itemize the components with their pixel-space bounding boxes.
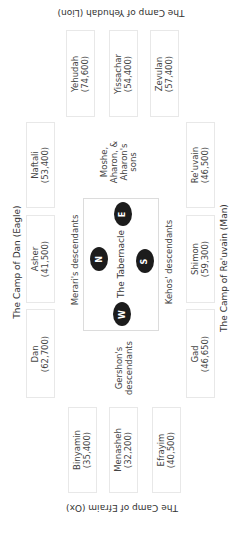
tribe-box-gad: Gad(46,650) (186, 309, 215, 398)
tribe-name: Yehudah (71, 55, 81, 91)
tabernacle-label: The Tabernacle (116, 230, 126, 298)
camp-label-efraim: The Camp of Efraim (Ox) (66, 503, 178, 513)
tribe-name: Yissachar (114, 53, 124, 93)
camp-label-yehudah: The Camp of Yehudah (Lion) (57, 8, 184, 18)
tribe-count: (41,500) (41, 241, 51, 277)
tribe-box-asher: Asher(41,500) (26, 215, 55, 303)
tribe-name: Gad (191, 335, 201, 371)
tribe-name: Naftali (31, 147, 41, 183)
tribe-name: Asher (31, 241, 41, 277)
tribe-box-shimon: Shimon(59,300) (186, 215, 215, 303)
direction-letter: W (117, 310, 126, 319)
levites-east-line: sons (130, 141, 140, 183)
tribe-box-dan: Dan(62,700) (26, 309, 55, 398)
tribe-box-naftali: Naftali(53,400) (26, 122, 55, 208)
tribe-name: Menasheh (114, 428, 124, 472)
levites-south-label: Kehos' descendants (165, 220, 175, 305)
direction-south-icon: S (136, 249, 154, 273)
direction-letter: N (94, 256, 103, 263)
tribe-name: Re'uvain (191, 147, 201, 183)
direction-north-icon: N (90, 247, 108, 271)
tribe-box-reuvain: Re'uvain(46,500) (186, 122, 215, 208)
tribe-box-efrayim: Efrayim(40,500) (152, 407, 181, 493)
camp-label-reuvain: The Camp of Re'uvain (Man) (219, 204, 229, 332)
tribe-count: (59,300) (201, 241, 211, 277)
tribe-name: Binyamin (73, 430, 83, 470)
tribe-count: (62,700) (41, 335, 51, 371)
levites-west-line: descendants (125, 341, 135, 395)
direction-west-icon: W (113, 302, 131, 326)
levites-north-label: Merari's descendants (71, 215, 81, 306)
tribe-box-binyamin: Binyamin(35,400) (68, 407, 97, 493)
tribe-name: Efrayim (157, 432, 167, 468)
tribe-count: (53,400) (41, 147, 51, 183)
tribe-count: (57,400) (165, 55, 175, 91)
direction-letter: S (140, 258, 149, 264)
tribe-count: (32,200) (124, 428, 134, 472)
tribe-name: Shimon (191, 241, 201, 277)
tribe-count: (46,650) (201, 335, 211, 371)
tribe-count: (46,500) (201, 147, 211, 183)
tribe-box-zevulan: Zevulan(57,400) (150, 30, 179, 117)
camp-label-dan: The Camp of Dan (Eagle) (12, 205, 22, 318)
tribe-name: Dan (31, 335, 41, 371)
tribe-box-yehudah: Yehudah(74,600) (66, 30, 95, 117)
levites-east-label: Moshe, Aharon, & Aharon's sons (100, 141, 139, 183)
tribe-count: (35,400) (83, 430, 93, 470)
tribe-count: (40,500) (167, 432, 177, 468)
tribe-count: (54,400) (124, 53, 134, 93)
direction-letter: E (119, 211, 128, 216)
levites-west-label: Gershon's descendants (115, 341, 135, 395)
tribe-count: (74,600) (81, 55, 91, 91)
tribe-box-menasheh: Menasheh(32,200) (109, 407, 138, 493)
tribe-name: Zevulan (155, 55, 165, 91)
direction-east-icon: E (114, 202, 132, 226)
tribe-box-yissachar: Yissachar(54,400) (109, 30, 138, 117)
